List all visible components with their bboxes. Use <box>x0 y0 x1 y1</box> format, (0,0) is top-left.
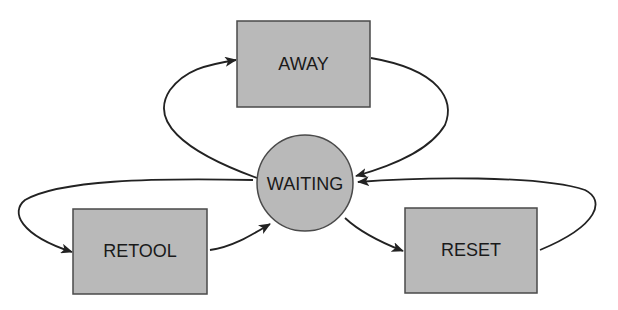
node-away: AWAY <box>237 21 370 107</box>
node-away-label: AWAY <box>278 54 328 74</box>
node-reset-label: RESET <box>441 240 501 260</box>
node-waiting-label: WAITING <box>267 174 343 194</box>
node-reset: RESET <box>405 208 537 293</box>
node-retool: RETOOL <box>73 209 207 294</box>
edge-retool-to-waiting <box>210 224 270 250</box>
node-waiting: WAITING <box>257 135 353 231</box>
node-retool-label: RETOOL <box>103 241 177 261</box>
state-diagram: AWAY WAITING RETOOL RESET <box>0 0 618 310</box>
edge-waiting-to-reset <box>345 218 403 251</box>
